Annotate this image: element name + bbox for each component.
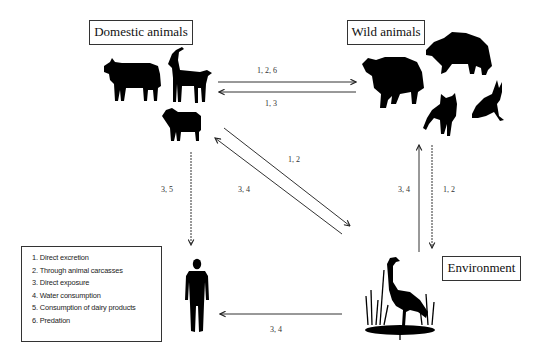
edge-label-domestic-to-human: 3, 5 [161, 185, 173, 194]
legend-item: 4. Water consumption [32, 290, 161, 303]
goat-icon [168, 47, 212, 103]
edge-label-environment-to-domestic: 3, 4 [238, 185, 250, 194]
legend-item: 1. Direct excretion [32, 252, 161, 265]
arrow-environment-to-domestic [215, 138, 342, 234]
legend-item: 3. Direct exposure [32, 277, 161, 290]
fox-icon [423, 93, 457, 136]
hare-icon [472, 80, 504, 121]
edge-label-environment-to-wild: 3, 4 [398, 185, 410, 194]
human-icon [185, 259, 209, 332]
wild-boar-icon [426, 32, 492, 75]
legend-item: 6. Predation [32, 315, 161, 328]
edge-label-domestic-to-wild: 1, 2, 6 [257, 66, 277, 75]
edge-label-wild-to-environment: 1, 2 [443, 185, 455, 194]
environment-label: Environment [442, 256, 521, 281]
heron-icon [365, 257, 435, 340]
legend-item: 5. Consumption of dairy products [32, 302, 161, 315]
edge-label-domestic-to-environment: 1, 2 [288, 155, 300, 164]
legend-item: 2. Through animal carcasses [32, 265, 161, 278]
transmission-diagram: Domestic animals Wild animals Environmen… [0, 0, 539, 360]
bear-icon [362, 57, 424, 108]
sheep-icon [162, 108, 201, 141]
cow-icon [104, 58, 161, 101]
arrow-domestic-to-environment [224, 128, 350, 226]
edge-label-wild-to-domestic: 1, 3 [265, 99, 277, 108]
edge-label-environment-to-human: 3, 4 [270, 325, 282, 334]
legend: 1. Direct excretion 2. Through animal ca… [21, 246, 162, 342]
domestic-animals-label: Domestic animals [89, 20, 193, 45]
wild-animals-label: Wild animals [347, 20, 425, 45]
